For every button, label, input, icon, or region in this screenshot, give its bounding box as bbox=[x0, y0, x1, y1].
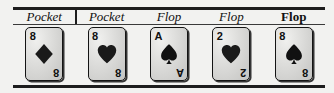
spades-suit-icon bbox=[158, 43, 180, 65]
column-label-2: Pocket bbox=[75, 9, 137, 24]
card-rank-bottom-right: 2 bbox=[240, 67, 246, 78]
card-slot-3: AA bbox=[138, 27, 200, 83]
card-rank-bottom-right: A bbox=[176, 67, 184, 78]
bottom-rule bbox=[13, 85, 325, 88]
poker-hand-strip: PocketPocketFlopFlopFlop 8888AA2288 bbox=[0, 0, 334, 93]
playing-card-diamonds-8[interactable]: 88 bbox=[25, 27, 63, 81]
column-label-3: Flop bbox=[138, 9, 200, 24]
column-divider bbox=[75, 9, 77, 25]
spades-suit-icon bbox=[283, 43, 305, 65]
diamonds-suit-icon bbox=[33, 43, 55, 65]
card-slot-1: 88 bbox=[13, 27, 75, 83]
column-label-4: Flop bbox=[200, 9, 262, 24]
card-slot-5: 88 bbox=[263, 27, 325, 83]
column-label-1: Pocket bbox=[13, 9, 75, 24]
card-rank-bottom-right: 8 bbox=[115, 67, 121, 78]
card-slot-2: 88 bbox=[75, 27, 137, 83]
card-rank-top-left: 8 bbox=[30, 31, 36, 42]
card-rank-bottom-right: 8 bbox=[53, 67, 59, 78]
playing-card-spades-8[interactable]: 88 bbox=[275, 27, 313, 81]
column-label-5: Flop bbox=[263, 9, 325, 24]
card-rank-top-left: A bbox=[154, 31, 162, 42]
playing-card-hearts-8[interactable]: 88 bbox=[88, 27, 126, 81]
playing-card-spades-A[interactable]: AA bbox=[150, 27, 188, 81]
card-rank-top-left: 8 bbox=[279, 31, 285, 42]
playing-card-hearts-2[interactable]: 22 bbox=[212, 27, 250, 81]
column-label-row: PocketPocketFlopFlopFlop bbox=[13, 9, 325, 24]
card-row: 8888AA2288 bbox=[13, 27, 325, 83]
card-rank-bottom-right: 8 bbox=[302, 67, 308, 78]
label-underline-rule bbox=[13, 24, 325, 25]
hearts-suit-icon bbox=[96, 43, 118, 65]
hearts-suit-icon bbox=[220, 43, 242, 65]
card-slot-4: 22 bbox=[200, 27, 262, 83]
card-rank-top-left: 2 bbox=[217, 31, 223, 42]
card-rank-top-left: 8 bbox=[92, 31, 98, 42]
